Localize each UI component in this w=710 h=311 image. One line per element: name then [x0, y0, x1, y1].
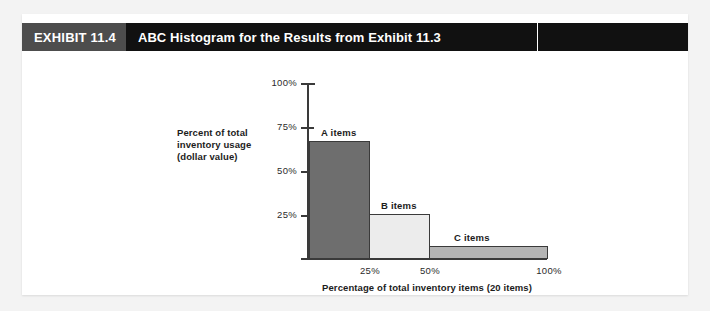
x-tick-label-25: 25% [360, 265, 380, 276]
y-axis-top-cap [301, 83, 315, 85]
screenshot-root: EXHIBIT 11.4 ABC Histogram for the Resul… [0, 0, 710, 311]
exhibit-number-tag: EXHIBIT 11.4 [22, 23, 126, 51]
header-divider [537, 23, 538, 51]
y-axis-title: Percent of total inventory usage (dollar… [177, 127, 292, 163]
exhibit-card: EXHIBIT 11.4 ABC Histogram for the Resul… [22, 14, 688, 295]
bar-c-items [429, 246, 548, 259]
bar-label-c: C items [454, 232, 490, 243]
bar-label-b: B items [381, 200, 417, 211]
bar-b-items [369, 214, 430, 259]
x-tick-label-100: 100% [536, 265, 562, 276]
bar-a-items [309, 141, 370, 259]
y-tick-label-100: 100% [247, 77, 297, 88]
abc-histogram-chart: 100% 75% 50% 25% Percent of total invent… [22, 51, 688, 295]
y-axis-title-line-3: (dollar value) [177, 151, 292, 163]
x-tick-label-50: 50% [420, 265, 440, 276]
y-axis-title-line-1: Percent of total [177, 127, 292, 139]
y-tick-label-25: 25% [247, 209, 297, 220]
x-axis-title: Percentage of total inventory items (20 … [307, 282, 547, 293]
exhibit-title: ABC Histogram for the Results from Exhib… [126, 23, 688, 51]
exhibit-header-bar: EXHIBIT 11.4 ABC Histogram for the Resul… [22, 23, 688, 51]
bar-label-a: A items [321, 127, 356, 138]
y-tick-label-50: 50% [247, 165, 297, 176]
y-axis-title-line-2: inventory usage [177, 139, 292, 151]
y-tick-75 [301, 127, 314, 129]
